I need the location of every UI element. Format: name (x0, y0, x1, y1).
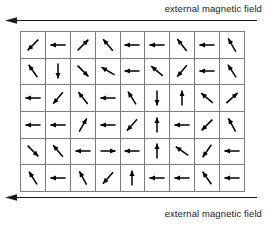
domain-cell (220, 112, 244, 138)
domain-cell (195, 85, 219, 111)
domain-arrow-down-left-icon (197, 141, 217, 161)
domain-cell (71, 85, 95, 111)
domain-cell (170, 59, 194, 85)
domain-arrow-up-right-icon (73, 115, 93, 135)
domain-cell (71, 112, 95, 138)
domain-arrow-left-icon (48, 115, 68, 135)
domain-arrow-left-icon (222, 168, 242, 188)
domain-arrow-up-left-icon (73, 88, 93, 108)
domain-cell (145, 32, 169, 58)
domain-cell (71, 139, 95, 165)
domain-cell (195, 139, 219, 165)
domain-arrow-up-left-icon (172, 141, 192, 161)
domain-cell (195, 32, 219, 58)
domain-cell (170, 32, 194, 58)
domain-cell (220, 139, 244, 165)
domain-arrow-left-icon (197, 35, 217, 55)
domain-arrow-left-icon (122, 141, 142, 161)
domain-arrow-left-icon (48, 35, 68, 55)
domain-cell (46, 112, 70, 138)
domain-arrow-left-icon (23, 115, 43, 135)
domain-cell (96, 59, 120, 85)
external-field-label-bottom: external magnetic field (0, 208, 265, 219)
domain-arrow-left-icon (48, 168, 68, 188)
domain-cell (220, 165, 244, 191)
domain-cell (71, 32, 95, 58)
domain-cell (71, 59, 95, 85)
domain-arrow-up-left-icon (147, 61, 167, 81)
domain-arrow-down-icon (147, 88, 167, 108)
domain-arrow-up-left-icon (222, 115, 242, 135)
domain-arrow-up-left-icon (197, 168, 217, 188)
domain-arrow-left-icon (147, 168, 167, 188)
domain-arrow-up-icon (147, 115, 167, 135)
domain-cell (121, 165, 145, 191)
domain-cell (145, 59, 169, 85)
domain-arrow-up-left-icon (48, 141, 68, 161)
field-direction-arrow-bottom (5, 193, 257, 202)
domain-cell (21, 112, 45, 138)
domain-cell (46, 59, 70, 85)
domain-arrow-up-left-icon (23, 61, 43, 81)
domain-arrow-up-left-icon (73, 168, 93, 188)
domain-arrow-left-icon (197, 61, 217, 81)
domain-cell (96, 139, 120, 165)
domain-arrow-down-left-icon (23, 35, 43, 55)
domain-arrow-up-left-icon (98, 61, 118, 81)
domain-arrow-down-left-icon (48, 88, 68, 108)
domain-cell (145, 165, 169, 191)
domain-cell (96, 32, 120, 58)
domain-arrow-left-icon (172, 168, 192, 188)
domain-cell (170, 139, 194, 165)
domain-cell (195, 112, 219, 138)
domain-arrow-left-icon (98, 115, 118, 135)
domain-cell (170, 112, 194, 138)
domain-arrow-left-icon (73, 141, 93, 161)
domain-cell (21, 139, 45, 165)
domain-cell (46, 32, 70, 58)
domain-arrow-up-icon (122, 168, 142, 188)
domain-cell (21, 32, 45, 58)
domain-cell (21, 59, 45, 85)
domain-cell (170, 165, 194, 191)
domain-cell (121, 59, 145, 85)
domain-cell (46, 139, 70, 165)
domain-cell (96, 85, 120, 111)
domain-cell (170, 85, 194, 111)
magnetic-domain-figure: external magnetic field external magneti… (0, 0, 265, 225)
domain-cell (21, 85, 45, 111)
domain-cell (145, 85, 169, 111)
domain-arrow-left-icon (222, 141, 242, 161)
domain-arrow-up-left-icon (222, 61, 242, 81)
domain-arrow-up-left-icon (172, 35, 192, 55)
domain-cell (96, 112, 120, 138)
domain-cell (96, 165, 120, 191)
domain-arrow-left-icon (98, 88, 118, 108)
domain-arrow-up-left-icon (98, 35, 118, 55)
domain-cell (145, 112, 169, 138)
domain-arrow-left-icon (147, 35, 167, 55)
domain-arrow-up-icon (172, 88, 192, 108)
domain-cell (195, 59, 219, 85)
domain-arrow-left-icon (23, 88, 43, 108)
domain-arrow-down-left-icon (98, 168, 118, 188)
domain-arrow-up-left-icon (122, 88, 142, 108)
domain-cell (71, 165, 95, 191)
domain-cell (121, 112, 145, 138)
domain-arrow-up-left-icon (222, 35, 242, 55)
external-field-label-top: external magnetic field (0, 3, 265, 14)
domain-cell (121, 32, 145, 58)
domain-cell (46, 85, 70, 111)
domain-cell (21, 165, 45, 191)
domain-arrow-up-right-icon (73, 35, 93, 55)
domain-arrow-down-left-icon (197, 115, 217, 135)
domain-arrow-down-right-icon (73, 61, 93, 81)
domain-cell (220, 32, 244, 58)
domain-arrow-right-icon (98, 141, 118, 161)
domain-arrow-up-icon (147, 141, 167, 161)
domain-cell (145, 139, 169, 165)
domain-arrow-down-left-icon (122, 115, 142, 135)
field-direction-arrow-top (5, 16, 257, 25)
domain-arrow-left-icon (122, 61, 142, 81)
domain-cell (220, 59, 244, 85)
